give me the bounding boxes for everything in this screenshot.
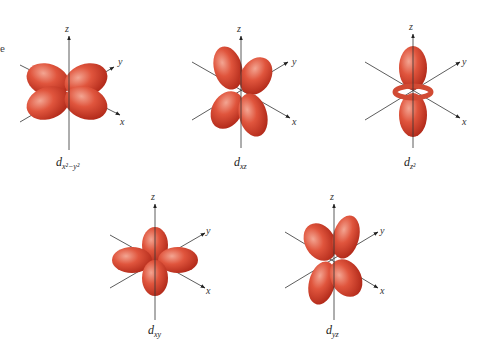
z-axis-label: z (151, 191, 155, 202)
dxy-diagram (110, 180, 250, 353)
z-axis-label: z (330, 191, 334, 202)
x-axis-label: x (206, 285, 210, 296)
dxz-caption: dxz (234, 155, 247, 171)
y-axis-label: y (118, 56, 122, 67)
dz2-caption: dz² (404, 155, 416, 171)
dx2-y2-caption: dx²−y² (56, 155, 79, 171)
y-axis-label: y (206, 225, 210, 236)
orbital-dz2: z y x dz² (320, 0, 483, 180)
z-axis-label: z (409, 21, 413, 32)
orbital-dx2-y2: z y x dx²−y² (0, 0, 160, 180)
x-axis-label: x (292, 116, 296, 127)
z-axis-label: z (65, 23, 69, 34)
x-axis-label: x (462, 116, 466, 127)
dxy-caption: dxy (148, 323, 161, 339)
x-axis-label: x (120, 116, 124, 127)
dx2-y2-diagram (0, 0, 160, 180)
x-axis-label: x (380, 285, 384, 296)
dz2-diagram (320, 0, 483, 180)
orbital-dxy: z y x dxy (110, 180, 250, 353)
dyz-caption: dyz (326, 323, 339, 339)
y-axis-label: y (380, 225, 384, 236)
y-axis-label: y (462, 56, 466, 67)
orbital-dxz: z y x dxz (170, 0, 320, 180)
y-axis-label: y (292, 56, 296, 67)
dxz-diagram (170, 0, 320, 180)
z-axis-label: z (237, 23, 241, 34)
orbital-dyz: z y x dyz (260, 180, 410, 353)
